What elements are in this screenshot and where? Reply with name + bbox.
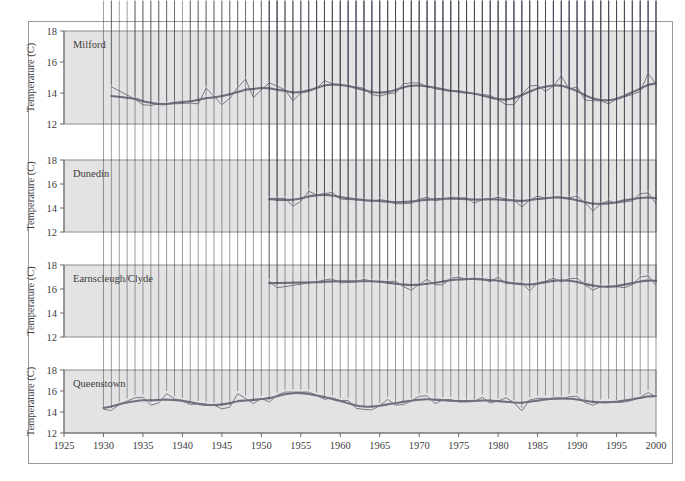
y-tick-label: 12 [47, 428, 58, 439]
y-tick-label: 14 [47, 308, 58, 319]
y-axis-title: Temperature (C) [25, 366, 37, 436]
y-axis-title: Temperature (C) [25, 266, 37, 336]
panel-label-milford: Milford [73, 39, 106, 50]
panel-plot-area [64, 160, 656, 232]
y-tick-label: 16 [47, 179, 58, 190]
x-tick-label: 1995 [606, 440, 627, 451]
x-tick-label: 1945 [211, 440, 232, 451]
y-tick-label: 18 [47, 26, 58, 37]
panel-label-earnscleugh-clyde: Earnscleugh/Clyde [73, 273, 153, 284]
panel-label-dunedin: Dunedin [73, 168, 110, 179]
y-tick-label: 16 [47, 386, 58, 397]
y-axis-title: Temperature (C) [25, 161, 37, 231]
panel-plot-area [64, 31, 656, 124]
y-tick-label: 14 [47, 407, 58, 418]
x-tick-label: 1985 [527, 440, 548, 451]
y-tick-label: 16 [47, 57, 58, 68]
y-tick-label: 16 [47, 284, 58, 295]
x-tick-label: 1975 [448, 440, 469, 451]
x-tick-label: 1970 [409, 440, 430, 451]
y-tick-label: 14 [47, 88, 58, 99]
y-tick-label: 12 [47, 119, 58, 130]
y-tick-label: 12 [47, 332, 58, 343]
x-tick-label: 1940 [172, 440, 193, 451]
panel-plot-area [64, 370, 656, 433]
y-tick-label: 18 [47, 260, 58, 271]
x-tick-label: 1930 [93, 440, 114, 451]
y-tick-label: 18 [47, 155, 58, 166]
y-tick-label: 14 [47, 203, 58, 214]
x-tick-label: 1935 [132, 440, 153, 451]
y-tick-label: 12 [47, 227, 58, 238]
x-tick-label: 1950 [251, 440, 272, 451]
panel-label-queenstown: Queenstown [73, 378, 126, 389]
x-tick-label: 1955 [290, 440, 311, 451]
x-tick-label: 1960 [330, 440, 351, 451]
x-tick-label: 2000 [646, 440, 667, 451]
x-tick-label: 1990 [567, 440, 588, 451]
x-tick-label: 1925 [54, 440, 75, 451]
multi-panel-temperature-chart: 12141618Temperature (C)Milford12141618Te… [0, 0, 685, 481]
y-tick-label: 18 [47, 365, 58, 376]
x-tick-label: 1965 [369, 440, 390, 451]
x-tick-label: 1980 [488, 440, 509, 451]
y-axis-title: Temperature (C) [25, 42, 37, 112]
figure-root: 12141618Temperature (C)Milford12141618Te… [0, 0, 685, 481]
